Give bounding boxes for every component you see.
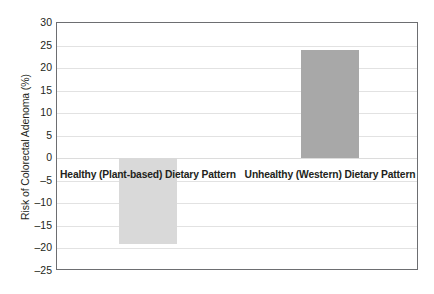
y-tick-label: 25 <box>26 39 52 50</box>
y-axis-tick-labels: 302520151050–5–10–15–20–25 <box>26 22 52 270</box>
y-tick-label: 5 <box>26 129 52 140</box>
y-tick-label: –25 <box>26 265 52 276</box>
y-tick-label: –15 <box>26 219 52 230</box>
bars-layer <box>57 23 417 269</box>
bar-chart: Risk of Colorectal Adenoma (%) 302520151… <box>0 0 434 294</box>
bar <box>301 50 359 158</box>
y-tick-label: –20 <box>26 242 52 253</box>
y-tick-label: 30 <box>26 17 52 28</box>
plot-area: Healthy (Plant-based) Dietary PatternUnh… <box>56 22 418 270</box>
y-tick-label: 20 <box>26 62 52 73</box>
y-tick-label: –10 <box>26 197 52 208</box>
y-tick-label: 10 <box>26 107 52 118</box>
y-tick-label: 15 <box>26 84 52 95</box>
bar <box>119 158 177 244</box>
y-tick-label: 0 <box>26 152 52 163</box>
y-tick-label: –5 <box>26 174 52 185</box>
